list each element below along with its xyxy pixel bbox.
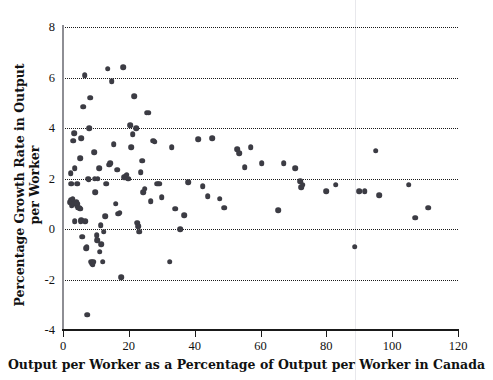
data-point [120, 65, 126, 71]
data-point [92, 190, 98, 196]
x-tick-label-20: 20 [123, 339, 136, 354]
x-tick-label-100: 100 [383, 339, 402, 354]
data-point [117, 210, 123, 216]
x-tick-0 [63, 331, 64, 337]
gridline-y-6 [63, 78, 458, 79]
data-point [83, 219, 89, 225]
y-axis-title: Percentage Growth Rate in Output per Wor… [12, 55, 42, 315]
data-point [376, 192, 382, 198]
data-point [68, 181, 74, 187]
data-point [101, 229, 107, 235]
data-point [293, 166, 299, 172]
data-point [118, 274, 124, 280]
data-point [81, 104, 87, 110]
data-point [68, 171, 74, 177]
x-axis-title: Output per Worker as a Percentage of Out… [0, 357, 493, 372]
gridline-y-4 [63, 128, 458, 129]
data-point [72, 166, 78, 172]
x-tick-label-40: 40 [188, 339, 201, 354]
data-point [242, 164, 248, 170]
data-point [129, 144, 135, 150]
data-point [169, 144, 175, 150]
x-tick-100 [392, 331, 393, 337]
data-point [90, 259, 96, 265]
data-point [95, 176, 101, 182]
data-point [137, 229, 143, 235]
data-point [70, 138, 76, 144]
data-point [281, 161, 287, 167]
data-point [275, 207, 281, 213]
data-point [113, 201, 119, 207]
data-point [82, 72, 88, 78]
x-tick-80 [326, 331, 327, 337]
data-point [177, 226, 183, 232]
x-tick-label-80: 80 [320, 339, 333, 354]
data-point [133, 125, 139, 131]
data-point [172, 206, 178, 212]
data-point [127, 123, 133, 129]
data-point [138, 169, 144, 175]
data-point [237, 150, 243, 156]
data-point [78, 156, 84, 162]
data-point [79, 234, 85, 240]
data-point [98, 241, 104, 247]
scatter-plot-figure: 020406080100120 -4-202468 Output per Wor… [0, 0, 493, 380]
data-point [91, 149, 97, 155]
data-point [362, 188, 368, 194]
data-point [109, 78, 115, 84]
data-point [77, 206, 83, 212]
data-point [131, 94, 137, 100]
data-point [87, 95, 93, 101]
data-point [104, 181, 110, 187]
data-point [74, 181, 80, 187]
data-point [72, 219, 78, 225]
data-point [248, 144, 254, 150]
data-point [86, 177, 92, 183]
y-tick-label-8: 8 [33, 20, 55, 35]
plot-area [63, 27, 458, 330]
data-point [96, 166, 102, 172]
data-point [159, 195, 165, 201]
data-point [97, 249, 103, 255]
data-point [105, 66, 111, 72]
data-point [210, 135, 216, 141]
data-point [148, 198, 154, 204]
x-tick-40 [195, 331, 196, 337]
y-axis-line [62, 25, 64, 331]
data-point [102, 214, 108, 220]
x-tick-120 [458, 331, 459, 337]
data-point [139, 158, 145, 164]
data-point [217, 196, 223, 202]
data-point [85, 312, 91, 318]
data-point [100, 259, 106, 265]
data-point [426, 205, 432, 211]
data-point [352, 244, 358, 250]
y-tick-label--4: -4 [33, 323, 55, 338]
data-point [300, 182, 306, 188]
data-point [181, 212, 187, 218]
gridline-y-0 [63, 229, 458, 230]
data-point [200, 183, 206, 189]
data-point [125, 176, 131, 182]
data-point [114, 167, 120, 173]
data-point [87, 125, 93, 131]
data-point [185, 179, 191, 185]
data-point [259, 161, 265, 167]
data-point [324, 188, 330, 194]
data-point [98, 222, 104, 228]
data-point [152, 139, 158, 145]
data-point [108, 161, 114, 167]
data-point [333, 182, 339, 188]
x-tick-60 [261, 331, 262, 337]
x-tick-label-120: 120 [449, 339, 468, 354]
data-point [71, 130, 77, 136]
data-point [195, 137, 201, 143]
x-tick-label-60: 60 [254, 339, 267, 354]
data-point [412, 215, 418, 221]
data-point [130, 132, 136, 138]
data-point [111, 142, 117, 148]
x-tick-20 [129, 331, 130, 337]
x-tick-label-0: 0 [60, 339, 66, 354]
data-point [167, 259, 173, 265]
data-point [205, 193, 211, 199]
